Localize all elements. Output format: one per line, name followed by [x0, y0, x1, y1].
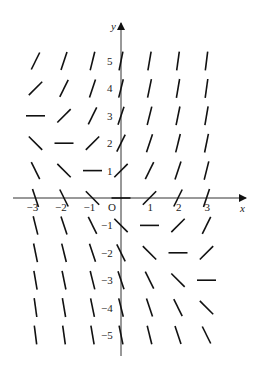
- slope-segment: [60, 80, 68, 97]
- slope-segment: [202, 327, 210, 344]
- slope-field-diagram: x y O −3−2−1123 54321−1−2−3−4−5: [0, 0, 262, 371]
- slope-segment: [175, 162, 181, 180]
- slope-segment: [86, 137, 99, 150]
- y-tick-label: −1: [101, 219, 113, 231]
- slope-segment: [57, 164, 70, 177]
- slope-segment: [171, 274, 184, 287]
- slope-segment: [61, 216, 67, 234]
- slope-segment: [171, 219, 184, 232]
- slope-segment: [175, 326, 181, 344]
- slope-segment: [176, 107, 180, 126]
- slope-segment: [176, 134, 181, 152]
- slope-segment: [90, 244, 96, 262]
- slope-segment: [176, 79, 179, 98]
- y-tick-label: −5: [101, 329, 113, 341]
- slope-segment: [147, 326, 152, 344]
- slope-segment: [205, 79, 208, 98]
- slope-segment: [147, 107, 152, 125]
- slope-segment: [34, 271, 37, 290]
- y-tick-label: 5: [107, 55, 113, 67]
- x-tick-label: 1: [148, 201, 154, 213]
- y-tick-label: −2: [101, 247, 113, 259]
- y-tick-label: −4: [101, 302, 113, 314]
- slope-segment: [29, 137, 42, 150]
- y-tick-label: 4: [107, 82, 113, 94]
- y-tick-label: 3: [107, 110, 113, 122]
- slope-segment: [145, 162, 153, 179]
- slope-segment: [90, 79, 96, 97]
- slope-segment: [61, 52, 67, 70]
- slope-segment: [34, 298, 37, 317]
- slope-segment: [90, 52, 95, 70]
- x-tick-label: −1: [84, 201, 96, 213]
- slope-segment: [91, 326, 94, 345]
- slope-segment: [202, 217, 210, 234]
- x-tick-labels: −3−2−1123: [27, 201, 211, 213]
- x-tick-label: 2: [176, 201, 182, 213]
- y-tick-label: −3: [101, 274, 113, 286]
- slope-segment: [205, 134, 209, 153]
- slope-segment: [200, 301, 213, 314]
- x-tick-label: −2: [55, 201, 67, 213]
- slope-segment: [148, 79, 152, 98]
- slope-segment: [200, 246, 213, 259]
- y-axis-label: y: [110, 20, 116, 32]
- slope-segment: [147, 134, 153, 152]
- slope-segment: [31, 162, 39, 179]
- y-tick-label: 2: [107, 137, 113, 149]
- slope-segment: [33, 216, 38, 234]
- x-axis-label: x: [239, 202, 245, 214]
- slope-segment: [204, 161, 209, 179]
- origin-label: O: [108, 201, 116, 213]
- slope-segment: [91, 298, 95, 317]
- slope-segment: [88, 107, 96, 124]
- slope-segment: [63, 326, 66, 345]
- slope-segment: [88, 217, 96, 234]
- slope-segment: [205, 106, 208, 125]
- slope-segment: [143, 246, 156, 259]
- slope-segment: [57, 109, 70, 122]
- slope-segment: [62, 244, 67, 262]
- slope-segment: [62, 271, 66, 290]
- slope-segment: [148, 52, 151, 71]
- slope-segment: [177, 52, 180, 71]
- slope-segment: [147, 299, 153, 317]
- y-tick-label: 1: [107, 165, 113, 177]
- slope-segment: [29, 82, 42, 95]
- slope-segment: [62, 298, 65, 317]
- slope-segment: [34, 326, 36, 345]
- slope-segment: [90, 271, 95, 289]
- slope-segment: [145, 272, 153, 289]
- slope-segment: [174, 299, 182, 316]
- slope-segment: [205, 52, 207, 71]
- slope-segment: [34, 244, 38, 263]
- slope-segment: [31, 53, 39, 70]
